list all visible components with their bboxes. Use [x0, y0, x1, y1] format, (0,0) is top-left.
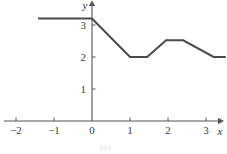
- data-line-piecewise-linear-curve: [38, 19, 226, 57]
- y-axis-label: y: [82, 0, 88, 11]
- y-axis-arrowhead: [89, 1, 95, 7]
- tick-labels-group: −2−10123123xy: [10, 0, 222, 137]
- y-tick-label: 2: [81, 51, 87, 63]
- x-tick-label: 1: [127, 124, 133, 136]
- x-tick-label: −1: [48, 124, 60, 136]
- caption-label: (b): [100, 145, 111, 152]
- data-series-group: [38, 19, 226, 57]
- y-tick-label: 1: [81, 83, 87, 95]
- x-axis-arrowhead: [218, 118, 224, 124]
- x-tick-label: 3: [203, 124, 209, 136]
- y-tick-label: 3: [81, 19, 87, 31]
- caption-strip: (b): [0, 145, 227, 154]
- x-axis-label: x: [217, 125, 223, 137]
- x-tick-label: 2: [165, 124, 171, 136]
- x-tick-label: 0: [89, 124, 95, 136]
- plot-area: −2−10123123xy: [0, 0, 227, 154]
- x-tick-label: −2: [10, 124, 22, 136]
- figure-container: −2−10123123xy (b): [0, 0, 227, 154]
- axes-group: [4, 1, 224, 125]
